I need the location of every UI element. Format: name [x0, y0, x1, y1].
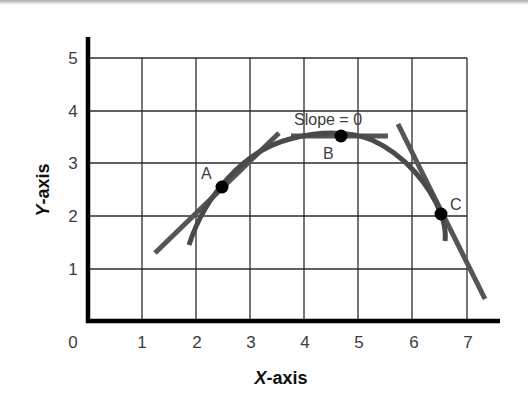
point-b-label: B [323, 145, 334, 162]
y-tick-1: 1 [68, 260, 77, 279]
point-c [435, 208, 448, 221]
x-tick-1: 1 [137, 333, 146, 352]
x-tick-6: 6 [409, 333, 418, 352]
x-axis-title: X-axis [253, 368, 307, 388]
x-tick-labels: 0 1 2 3 4 5 6 7 [68, 333, 472, 352]
y-axis-title: Y-axis [33, 163, 53, 216]
y-axis-title-rest: -axis [33, 163, 53, 204]
x-axis-title-italic: X [253, 368, 267, 388]
x-tick-5: 5 [354, 333, 363, 352]
x-tick-2: 2 [192, 333, 201, 352]
y-tick-4: 4 [68, 102, 77, 121]
x-tick-0: 0 [68, 333, 77, 352]
x-axis-title-rest: -axis [266, 368, 307, 388]
slope-zero-label: Slope = 0 [294, 111, 362, 128]
x-tick-7: 7 [463, 333, 472, 352]
y-tick-3: 3 [68, 154, 77, 173]
point-c-label: C [450, 196, 462, 213]
x-tick-4: 4 [300, 333, 309, 352]
point-a-label: A [201, 165, 212, 182]
grid [88, 58, 467, 321]
x-tick-3: 3 [246, 333, 255, 352]
point-a [216, 181, 229, 194]
chart: A Slope = 0 B C 5 4 3 2 1 0 1 2 3 4 5 6 … [0, 0, 528, 417]
y-tick-labels: 5 4 3 2 1 [68, 49, 77, 279]
y-tick-2: 2 [68, 207, 77, 226]
point-b [335, 130, 348, 143]
y-tick-5: 5 [68, 49, 77, 68]
